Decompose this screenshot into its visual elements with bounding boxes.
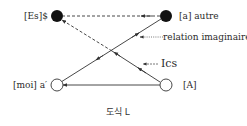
node-a (160, 10, 172, 22)
label-A: [A] (183, 80, 197, 90)
label-relation-imaginaire: relation imaginaire (163, 32, 247, 42)
figure-caption: 도식 L (106, 107, 130, 117)
node-moi (51, 79, 63, 91)
schema-l-diagram: [Es]$ [a] autre relation imaginaire Ics … (0, 0, 247, 126)
label-ics: Ics (161, 58, 177, 70)
label-moi: [moi] a′ (13, 80, 47, 90)
label-a-autre: [a] autre (179, 11, 219, 21)
label-es: [Es]$ (24, 11, 48, 21)
node-es (51, 10, 63, 22)
node-A (160, 79, 172, 91)
